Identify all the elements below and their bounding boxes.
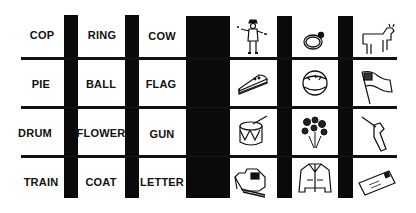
word-pie: PIE [11,78,71,90]
ball-icon [293,63,337,103]
flowers-icon [293,112,337,152]
word-flower: FLOWER [71,127,131,139]
word-coat: COAT [71,176,131,188]
word-cow: COW [132,30,192,42]
police-officer-icon [231,17,275,57]
word-gun: GUN [132,128,192,140]
pie-slice-icon [231,63,275,103]
row-divider-2 [21,106,397,109]
gun-icon [354,113,398,153]
row-divider-1 [21,57,397,60]
row-divider-3 [21,155,397,158]
coat-icon [293,160,337,200]
word-flag: FLAG [131,78,191,90]
letter-envelope-icon [355,161,399,201]
word-letter: LETTER [132,176,192,188]
drum-icon [231,112,275,152]
word-ring: RING [72,29,132,41]
word-ball: BALL [71,78,131,90]
word-drum: DRUM [5,127,65,139]
train-icon [231,159,275,199]
word-cop: COP [12,29,72,41]
word-train: TRAIN [11,176,71,188]
cow-icon [355,18,399,58]
ring-icon [293,18,337,58]
flag-icon [354,66,398,106]
